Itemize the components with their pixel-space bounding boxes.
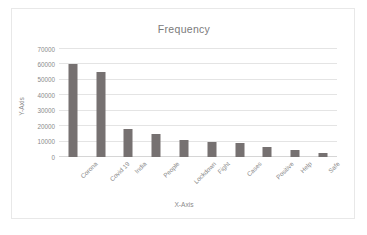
y-axis-tick-label: 40000 bbox=[37, 91, 55, 98]
y-axis-title: Y-Axis bbox=[18, 97, 25, 115]
bar-slot bbox=[281, 49, 309, 157]
bar[interactable] bbox=[263, 147, 272, 157]
x-axis-tick-label: Lockdown bbox=[192, 160, 217, 185]
bar[interactable] bbox=[207, 142, 216, 157]
y-axis-tick-label: 20000 bbox=[37, 122, 55, 129]
x-axis-tick-label: Cases bbox=[245, 160, 263, 178]
chart-frame: Frequency Y-Axis 01000020000300004000050… bbox=[11, 8, 355, 219]
bar-slot bbox=[87, 49, 115, 157]
bar-series bbox=[59, 49, 337, 157]
bar[interactable] bbox=[180, 140, 189, 157]
bar-slot bbox=[309, 49, 337, 157]
x-axis-tick-label: Positive bbox=[274, 160, 295, 181]
bar-slot bbox=[170, 49, 198, 157]
x-axis-tick-label: India bbox=[132, 160, 147, 175]
x-axis-tick-label: Fight bbox=[216, 160, 231, 175]
bar[interactable] bbox=[235, 143, 244, 157]
bar-slot bbox=[254, 49, 282, 157]
plot-area: 010000200003000040000500006000070000 bbox=[59, 49, 337, 157]
y-axis-tick-label: 10000 bbox=[37, 138, 55, 145]
x-axis-tick-label: Covid 19 bbox=[108, 160, 131, 183]
y-axis-tick-label: 0 bbox=[51, 153, 55, 160]
x-axis-title: X-Axis bbox=[12, 201, 356, 208]
x-axis-tick-label: Safe bbox=[327, 160, 341, 174]
bar[interactable] bbox=[124, 129, 133, 157]
bar-slot bbox=[226, 49, 254, 157]
bar[interactable] bbox=[96, 72, 105, 157]
bar[interactable] bbox=[291, 150, 300, 157]
y-axis-tick-label: 50000 bbox=[37, 76, 55, 83]
x-axis-tick-label: People bbox=[162, 160, 181, 179]
chart-title: Frequency bbox=[12, 23, 356, 35]
bar[interactable] bbox=[319, 153, 328, 157]
y-axis-tick-label: 60000 bbox=[37, 60, 55, 67]
y-axis-tick-label: 30000 bbox=[37, 107, 55, 114]
y-axis-tick-label: 70000 bbox=[37, 45, 55, 52]
x-axis-tick-label: Corona bbox=[79, 160, 99, 180]
x-axis-tick-labels: CoronaCovid 19IndiaPeopleLockdownFightCa… bbox=[59, 158, 337, 202]
bar-slot bbox=[198, 49, 226, 157]
x-axis-tick-label: Help bbox=[299, 160, 313, 174]
bar[interactable] bbox=[152, 134, 161, 157]
bar[interactable] bbox=[68, 64, 77, 157]
bar-slot bbox=[142, 49, 170, 157]
bar-slot bbox=[59, 49, 87, 157]
bar-slot bbox=[115, 49, 143, 157]
